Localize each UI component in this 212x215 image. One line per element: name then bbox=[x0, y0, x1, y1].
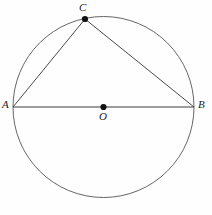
vertex-label-b: B bbox=[198, 99, 205, 110]
point-marker-c bbox=[82, 16, 88, 22]
center-label-o: O bbox=[99, 111, 107, 122]
chord-segment-ac bbox=[13, 19, 85, 107]
geometry-figure: A B C O bbox=[0, 0, 212, 215]
chord-segment-cb bbox=[85, 19, 194, 107]
vertex-label-c: C bbox=[79, 2, 86, 13]
vertex-label-a: A bbox=[2, 99, 9, 110]
geometry-canvas bbox=[0, 0, 212, 215]
